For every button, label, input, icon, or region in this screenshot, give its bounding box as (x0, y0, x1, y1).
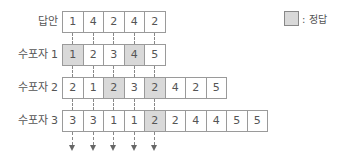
cell: 4 (124, 11, 146, 33)
cell: 3 (103, 44, 125, 66)
cell: 3 (124, 77, 146, 99)
row-label: 수포자 2 (18, 77, 59, 99)
cell: 2 (62, 77, 84, 99)
answer-legend: : 정답 (284, 11, 327, 26)
row-label: 수포자 3 (18, 110, 59, 132)
arrow-down-icon (131, 145, 137, 151)
dashed-connector (154, 33, 155, 44)
cell: 3 (62, 110, 84, 132)
student-row: 12345 (62, 44, 165, 66)
arrow-down-icon (110, 145, 116, 151)
legend-label: : 정답 (302, 11, 327, 26)
cell: 1 (83, 77, 105, 99)
cell: 2 (103, 11, 125, 33)
dashed-connector (113, 99, 114, 110)
row-label: 수포자 1 (18, 44, 59, 66)
dashed-connector (72, 33, 73, 44)
dashed-connector (154, 66, 155, 77)
cell: 2 (165, 110, 187, 132)
cell: 1 (103, 110, 125, 132)
dashed-connector (154, 99, 155, 110)
cell: 2 (83, 44, 105, 66)
arrow-down-icon (151, 145, 157, 151)
cell: 2 (144, 11, 166, 33)
dashed-connector (72, 66, 73, 77)
dashed-connector (113, 132, 114, 145)
correct-cell: 4 (124, 44, 146, 66)
cell: 3 (83, 110, 105, 132)
correct-cell: 2 (144, 77, 166, 99)
dashed-connector (72, 132, 73, 145)
dashed-connector (93, 66, 94, 77)
student-row: 3311224455 (62, 110, 267, 132)
cell: 4 (185, 110, 207, 132)
cell: 5 (226, 110, 248, 132)
correct-cell: 2 (103, 77, 125, 99)
cell: 4 (206, 110, 228, 132)
row-label: 답안 (38, 11, 58, 33)
correct-swatch-icon (284, 11, 299, 26)
cell: 4 (83, 11, 105, 33)
correct-cell: 1 (62, 44, 84, 66)
answer-row: 14242 (62, 11, 165, 33)
arrow-down-icon (69, 145, 75, 151)
cell: 2 (185, 77, 207, 99)
dashed-connector (134, 99, 135, 110)
dashed-connector (113, 33, 114, 44)
dashed-connector (93, 132, 94, 145)
dashed-connector (134, 33, 135, 44)
cell: 5 (247, 110, 269, 132)
dashed-connector (72, 99, 73, 110)
dashed-connector (134, 132, 135, 145)
arrow-down-icon (90, 145, 96, 151)
dashed-connector (154, 132, 155, 145)
dashed-connector (134, 66, 135, 77)
cell: 4 (165, 77, 187, 99)
cell: 5 (206, 77, 228, 99)
cell: 1 (62, 11, 84, 33)
dashed-connector (93, 33, 94, 44)
dashed-connector (93, 99, 94, 110)
correct-cell: 2 (144, 110, 166, 132)
dashed-connector (113, 66, 114, 77)
student-row: 21232425 (62, 77, 226, 99)
cell: 5 (144, 44, 166, 66)
cell: 1 (124, 110, 146, 132)
